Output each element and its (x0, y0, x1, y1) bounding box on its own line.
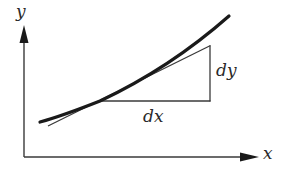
x-axis-arrow-icon (240, 153, 259, 162)
y-axis-label: y (16, 3, 26, 20)
dy-label: dy (216, 62, 237, 79)
x-axis (24, 153, 259, 162)
x-axis-label: x (263, 145, 273, 162)
y-axis (20, 25, 29, 157)
function-curve (40, 16, 229, 122)
y-axis-arrow-icon (20, 25, 29, 43)
dx-label: dx (143, 108, 163, 125)
derivative-diagram (0, 0, 288, 183)
